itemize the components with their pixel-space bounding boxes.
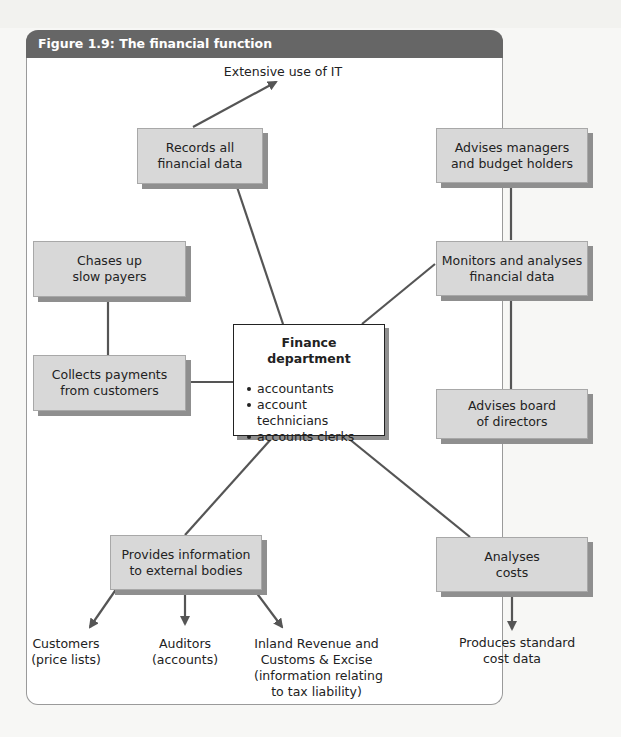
box-chases-line2: slow payers <box>72 269 146 285</box>
label-customers-line2: (price lists) <box>30 652 102 668</box>
box-provides-information: Provides information to external bodies <box>110 535 262 590</box>
label-inland-line3: (information relating <box>254 668 379 684</box>
box-monitors-line2: financial data <box>470 269 555 285</box>
box-analyses-costs: Analyses costs <box>436 537 588 592</box>
box-analyses-line2: costs <box>496 565 528 581</box>
box-finance-department: Finance department accountants account t… <box>233 324 385 436</box>
box-provides-line1: Provides information <box>122 547 251 563</box>
label-produces-standard-cost-data: Produces standard cost data <box>459 635 565 667</box>
label-customers-line1: Customers <box>30 636 102 652</box>
label-auditors-line2: (accounts) <box>150 652 220 668</box>
label-it-line1: Extensive use of IT <box>218 64 348 80</box>
box-advises-board-line2: of directors <box>476 414 547 430</box>
label-inland-line2: Customs & Excise <box>254 652 379 668</box>
page-background-strip <box>0 0 621 28</box>
box-records-line2: financial data <box>158 156 243 172</box>
box-advises-board: Advises board of directors <box>436 389 588 439</box>
label-standard-line1: Produces standard <box>459 635 565 651</box>
box-chases-line1: Chases up <box>77 253 142 269</box>
label-extensive-use-of-it: Extensive use of IT <box>218 64 348 80</box>
label-inland-line4: to tax liability) <box>254 684 379 700</box>
label-standard-line2: cost data <box>459 651 565 667</box>
box-advises-managers-line1: Advises managers <box>455 140 570 156</box>
finance-department-title: Finance department <box>246 335 372 367</box>
box-monitors-line1: Monitors and analyses <box>442 253 582 269</box>
label-customers: Customers (price lists) <box>30 636 102 668</box>
box-chases-slow-payers: Chases up slow payers <box>33 241 186 297</box>
label-auditors-line1: Auditors <box>150 636 220 652</box>
box-advises-managers-line2: and budget holders <box>451 156 573 172</box>
staff-item: accounts clerks <box>246 429 372 445</box>
finance-department-staff-list: accountants account technicians accounts… <box>246 381 372 445</box>
figure-title: Figure 1.9: The financial function <box>26 30 503 58</box>
box-records-line1: Records all <box>166 140 234 156</box>
box-monitors-analyses: Monitors and analyses financial data <box>436 241 588 296</box>
box-provides-line2: to external bodies <box>129 563 242 579</box>
box-analyses-line1: Analyses <box>484 549 540 565</box>
box-collects-line1: Collects payments <box>52 367 167 383</box>
staff-item: accountants <box>246 381 372 397</box>
staff-item: account technicians <box>246 397 372 429</box>
box-records-financial-data: Records all financial data <box>137 128 263 184</box>
label-inland-revenue: Inland Revenue and Customs & Excise (inf… <box>254 636 379 700</box>
box-collects-payments: Collects payments from customers <box>33 355 186 411</box>
box-advises-managers: Advises managers and budget holders <box>436 128 588 183</box>
box-collects-line2: from customers <box>60 383 158 399</box>
label-auditors: Auditors (accounts) <box>150 636 220 668</box>
label-inland-line1: Inland Revenue and <box>254 636 379 652</box>
box-advises-board-line1: Advises board <box>468 398 556 414</box>
